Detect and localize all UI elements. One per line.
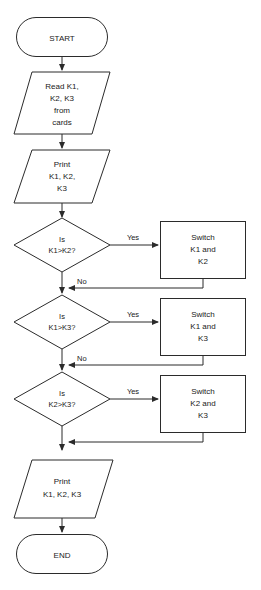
print-last-label-line-2: K1, K2, K3 (43, 490, 82, 499)
node-print-first: Print K1, K2, K3 (14, 150, 110, 203)
read-label-line-1: Read K1, (45, 82, 78, 91)
decision1-diamond-shape (14, 218, 110, 272)
node-read: Read K1, K2, K3 from cards (14, 72, 110, 134)
node-switch2: Switch K1 and K3 (161, 299, 246, 356)
edge-label-yes1: Yes (127, 233, 139, 242)
decision1-label-line-1: Is (59, 235, 65, 244)
edge-label-yes3: Yes (127, 387, 139, 396)
node-decision3: Is K2>K3? (14, 372, 110, 426)
read-label-line-2: K2, K3 (50, 94, 75, 103)
print-last-label-line-1: Print (54, 477, 71, 486)
edge-switch1-return (69, 279, 203, 289)
start-label: START (49, 34, 75, 43)
switch3-label-line-3: K3 (198, 411, 208, 420)
switch3-label-line-1: Switch (191, 387, 215, 396)
decision3-label-line-2: K2>K3? (49, 400, 76, 409)
switch3-label-line-2: K2 and (190, 399, 215, 408)
decision2-label-line-2: K1>K3? (49, 323, 76, 332)
read-label-line-4: cards (52, 118, 72, 127)
switch1-label-line-3: K2 (198, 257, 208, 266)
node-switch3: Switch K2 and K3 (161, 376, 246, 433)
node-decision1: Is K1>K2? (14, 218, 110, 272)
node-switch1: Switch K1 and K2 (161, 222, 246, 279)
switch2-label-line-2: K1 and (190, 322, 215, 331)
edge-switch2-return (69, 356, 203, 366)
edge-switch3-return (69, 433, 203, 443)
decision2-label-line-1: Is (59, 312, 65, 321)
decision3-label-line-1: Is (59, 389, 65, 398)
print-first-label-line-3: K3 (57, 184, 67, 193)
decision3-diamond-shape (14, 372, 110, 426)
switch2-label-line-1: Switch (191, 310, 215, 319)
edge-label-no1: No (77, 277, 87, 286)
node-start: START (17, 18, 108, 57)
end-label: END (54, 551, 71, 560)
node-print-last: Print K1, K2, K3 (14, 460, 113, 518)
decision2-diamond-shape (14, 295, 110, 349)
read-label-line-3: from (54, 106, 70, 115)
print-first-label-line-2: K1, K2, (49, 172, 75, 181)
print-first-label-line-1: Print (54, 160, 71, 169)
print-last-parallelogram-shape (14, 460, 113, 518)
switch1-label-line-1: Switch (191, 233, 215, 242)
switch1-label-line-2: K1 and (190, 245, 215, 254)
switch2-label-line-3: K3 (198, 334, 208, 343)
edge-label-no2: No (77, 354, 87, 363)
flowchart-canvas: START Read K1, K2, K3 from cards Print K… (0, 0, 261, 590)
node-decision2: Is K1>K3? (14, 295, 110, 349)
edge-label-yes2: Yes (127, 310, 139, 319)
decision1-label-line-2: K1>K2? (49, 246, 76, 255)
node-end: END (17, 535, 108, 574)
